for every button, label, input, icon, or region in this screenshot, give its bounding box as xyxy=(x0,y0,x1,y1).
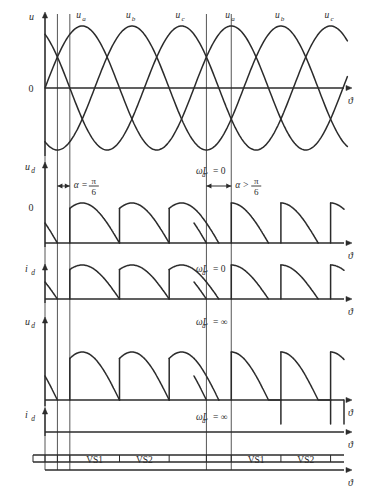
ud1-zero-tick: 0 xyxy=(29,202,34,213)
svg-text:d: d xyxy=(31,166,35,175)
id2-axis-arrow xyxy=(346,429,352,434)
sine-axis-symbol: ϑ xyxy=(348,95,354,106)
svg-text:i: i xyxy=(25,409,28,420)
phase-label-b-1: ub xyxy=(275,10,285,23)
id1-pulse-0 xyxy=(70,265,120,299)
phase-label-a-1: ua xyxy=(225,10,235,23)
svg-text:d: d xyxy=(202,322,206,330)
id1-lead-1 xyxy=(194,282,206,299)
ud1-pulse-4 xyxy=(281,203,318,243)
alpha-right-arrow-a xyxy=(206,184,211,189)
sine-zero-tick: 0 xyxy=(29,83,34,94)
svg-text:u: u xyxy=(275,10,280,20)
id1-pulse-5 xyxy=(331,265,344,270)
conduction-label-vs1-0: VS1 xyxy=(86,455,103,465)
ud1-axis-symbol: ϑ xyxy=(348,250,354,261)
svg-text:u: u xyxy=(29,11,34,22)
ud2-pulse-1 xyxy=(120,352,170,400)
id1-axis-arrow xyxy=(346,296,352,301)
conduction-label-vs2-0: VS2 xyxy=(136,455,153,465)
svg-text:i: i xyxy=(25,263,28,274)
axis-label-id-1: id xyxy=(25,263,35,277)
id2-y-arrow xyxy=(42,408,47,414)
svg-text:d: d xyxy=(202,417,206,425)
ud2-y-arrow xyxy=(42,317,47,323)
svg-text:d: d xyxy=(202,171,206,179)
id1-pulse-4 xyxy=(281,265,318,299)
ud1-pulse-3 xyxy=(231,203,268,243)
svg-text:u: u xyxy=(126,10,131,20)
svg-text:d: d xyxy=(31,414,35,423)
axis-label-ud-2: ud xyxy=(25,316,35,330)
svg-text:c: c xyxy=(181,15,185,23)
svg-text:b: b xyxy=(281,15,285,23)
svg-text:a: a xyxy=(231,15,235,23)
note-wld-inf-id-tail: = ∞ xyxy=(213,412,228,422)
phase-label-b-0: ub xyxy=(126,10,136,23)
ud1-pulse-5 xyxy=(331,203,344,209)
ud1-pulse-1 xyxy=(120,203,170,243)
svg-text:c: c xyxy=(330,15,334,23)
svg-text:b: b xyxy=(132,15,136,23)
ud1-lead-1 xyxy=(194,223,206,243)
ud2-lead-0 xyxy=(45,376,57,400)
axis-label-ud-1: ud xyxy=(25,161,35,175)
alpha-left-arrow-a xyxy=(57,184,62,189)
alpha-right-arrow-b xyxy=(226,184,231,189)
svg-text:u: u xyxy=(76,10,81,20)
id1-axis-symbol: ϑ xyxy=(348,306,354,317)
svg-text:u: u xyxy=(176,10,181,20)
phase-label-a-0: ua xyxy=(76,10,86,23)
id2-axis-symbol: ϑ xyxy=(348,439,354,450)
ud2-pulse-3 xyxy=(231,352,281,400)
svg-text:d: d xyxy=(202,269,206,277)
alpha-left-label: α = xyxy=(74,180,88,190)
svg-text:u: u xyxy=(325,10,330,20)
phase-label-c-0: uc xyxy=(176,10,186,23)
ud2-lead-1 xyxy=(194,376,206,400)
ud2-axis-symbol: ϑ xyxy=(348,407,354,418)
ud1-lead-0 xyxy=(45,223,57,243)
bar-axis-symbol: ϑ xyxy=(348,477,354,488)
ud2-axis-arrow xyxy=(346,397,352,402)
phase-label-c-1: uc xyxy=(325,10,335,23)
id1-y-arrow xyxy=(42,264,47,270)
svg-text:d: d xyxy=(31,268,35,277)
alpha-left-num: π xyxy=(92,176,97,186)
note-wld-inf-ud-tail: = ∞ xyxy=(213,317,228,327)
svg-text:d: d xyxy=(31,321,35,330)
conduction-label-vs1-1: VS1 xyxy=(248,455,265,465)
alpha-right-den: 6 xyxy=(254,187,259,197)
note-wld-zero-ud-tail: = 0 xyxy=(213,166,226,176)
alpha-left-den: 6 xyxy=(92,187,97,197)
ud2-pulse-0 xyxy=(70,352,120,400)
conduction-label-vs2-1: VS2 xyxy=(297,455,314,465)
id1-lead-0 xyxy=(45,282,57,299)
ud1-y-arrow xyxy=(42,162,47,168)
bar-axis-arrow xyxy=(346,467,352,472)
note-wld-zero-id-tail: = 0 xyxy=(213,264,226,274)
svg-text:u: u xyxy=(25,316,30,327)
axis-label-id-2: id xyxy=(25,409,35,423)
waveform-canvas: u0ϑuaubucuaubucud0ϑωLd = 0α =π6α >π6idϑω… xyxy=(0,0,380,497)
alpha-right-num: π xyxy=(254,176,259,186)
svg-text:a: a xyxy=(82,15,86,23)
svg-text:u: u xyxy=(25,161,30,172)
alpha-right-label: α > xyxy=(235,180,249,190)
ud2-pulse-5 xyxy=(331,352,344,360)
axis-label-u: u xyxy=(29,11,34,22)
id1-pulse-3 xyxy=(231,265,268,299)
alpha-left-arrow-b xyxy=(65,184,70,189)
ud1-pulse-0 xyxy=(70,203,120,243)
svg-text:u: u xyxy=(225,10,230,20)
ud2-pulse-4 xyxy=(281,352,331,400)
sine-axis-arrow xyxy=(346,85,352,90)
id1-pulse-1 xyxy=(120,265,170,299)
ud1-axis-arrow xyxy=(346,240,352,245)
waveform-figure: u0ϑuaubucuaubucud0ϑωLd = 0α =π6α >π6idϑω… xyxy=(0,0,380,497)
